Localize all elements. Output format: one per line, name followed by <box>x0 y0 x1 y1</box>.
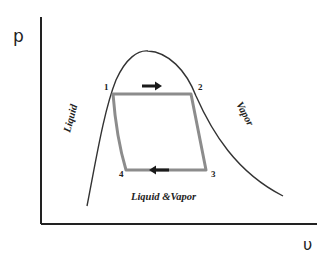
region-label-vapor: Vapor <box>234 100 256 129</box>
cycle-path <box>113 94 206 170</box>
region-label-mixture: Liquid &Vapor <box>130 191 197 202</box>
pv-diagram: p υ 1 2 3 4 Liquid Vapor Liquid &Vapor <box>0 0 333 256</box>
point-label-4: 4 <box>119 169 124 179</box>
region-label-liquid: Liquid <box>61 102 79 134</box>
y-axis-label: p <box>13 26 24 46</box>
x-axis-label: υ <box>303 235 312 254</box>
axes: p υ <box>13 17 317 254</box>
point-label-1: 1 <box>104 82 109 92</box>
arrow-right-icon <box>142 82 162 91</box>
arrow-left-icon <box>149 166 169 175</box>
point-label-2: 2 <box>198 82 203 92</box>
point-label-3: 3 <box>211 169 216 179</box>
